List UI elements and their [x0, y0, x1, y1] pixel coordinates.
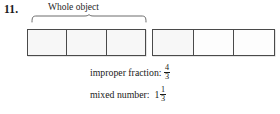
improper-fraction-value: 4 3: [164, 64, 170, 81]
answers-block: improper fraction: 4 3 mixed number: 1 1…: [0, 62, 280, 106]
fraction-cell: [107, 30, 145, 55]
whole-object-label: Whole object: [48, 3, 99, 13]
mixed-numerator: 1: [160, 86, 166, 94]
mixed-number-label: mixed number:: [90, 90, 150, 100]
improper-denominator: 3: [164, 72, 170, 81]
fraction-cell: [153, 30, 194, 55]
question-number: 11.: [4, 4, 18, 16]
mixed-denominator: 3: [160, 94, 166, 103]
fraction-cell: [234, 30, 274, 55]
mixed-whole-part: 1: [155, 90, 160, 100]
improper-fraction-row: improper fraction: 4 3: [0, 62, 280, 84]
fraction-cell: [67, 30, 106, 55]
mixed-number-row: mixed number: 1 1 3: [0, 84, 280, 106]
fraction-cell: [194, 30, 235, 55]
fraction-cell: [28, 30, 67, 55]
mixed-fraction-part: 1 3: [160, 86, 166, 103]
whole-object-brace: [31, 14, 147, 23]
fraction-strip-partial: [152, 29, 275, 56]
improper-fraction-label: improper fraction:: [90, 68, 162, 78]
fraction-strip-whole: [27, 29, 146, 56]
improper-numerator: 4: [164, 64, 170, 72]
brace-icon: [31, 14, 147, 23]
